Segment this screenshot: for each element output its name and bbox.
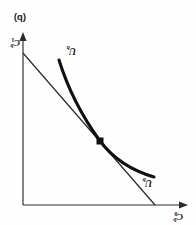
- c0b-label-base: C: [177, 212, 183, 222]
- indifference-curve: [59, 60, 154, 177]
- indifference-curve-label-upper: Ub: [142, 178, 152, 188]
- panel-label: (b): [14, 14, 26, 24]
- budget-constraint-line: [23, 53, 155, 205]
- c1b-label-base: C: [14, 38, 20, 48]
- c1b-label-superscript: b: [10, 43, 13, 50]
- u-lower-base: U: [69, 46, 76, 56]
- u-upper-subscript: b: [142, 177, 145, 184]
- c0b-axis-label: C0b: [171, 212, 183, 221]
- left-arrow-icon: [179, 201, 188, 208]
- figure-panel-b: C0b C1b Ub Ub (b): [0, 0, 196, 225]
- c0b-label-superscript: b: [173, 217, 176, 224]
- figure-drawing: [0, 0, 196, 225]
- down-arrow-icon: [19, 32, 26, 41]
- u-lower-subscript: b: [66, 45, 69, 52]
- tangency-point-marker: [97, 138, 104, 145]
- c1b-axis-label: C1b: [8, 38, 20, 47]
- indifference-curve-label-lower: Ub: [66, 46, 76, 56]
- u-upper-base: U: [145, 178, 152, 188]
